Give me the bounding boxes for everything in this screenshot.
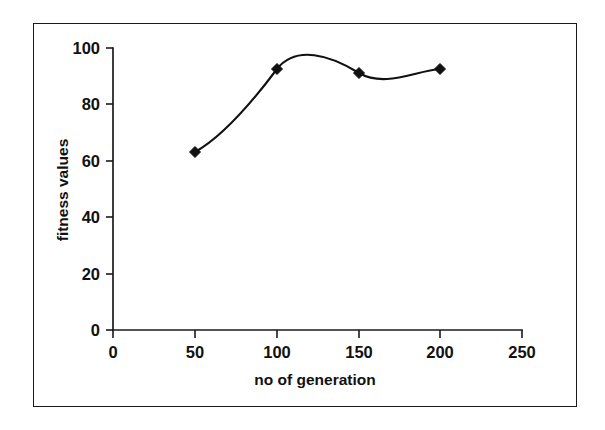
x-tick-label: 50 bbox=[186, 343, 204, 361]
y-tick-label: 80 bbox=[82, 95, 100, 113]
plot-area bbox=[113, 48, 522, 330]
x-axis-title: no of generation bbox=[254, 371, 375, 388]
x-tick-label: 0 bbox=[108, 343, 117, 361]
x-tick-label: 200 bbox=[426, 343, 454, 361]
chart-svg: 100 80 60 40 20 0 0 50 100 150 200 250 n… bbox=[0, 0, 605, 430]
y-tick-label: 60 bbox=[82, 152, 100, 170]
y-axis-tick-labels: 100 80 60 40 20 0 bbox=[72, 39, 100, 339]
x-tick-label: 250 bbox=[508, 343, 536, 361]
y-tick-label: 100 bbox=[72, 39, 100, 57]
y-axis-title: fitness values bbox=[54, 139, 71, 242]
y-tick-label: 40 bbox=[82, 208, 100, 226]
y-tick-label: 0 bbox=[91, 321, 100, 339]
x-axis-ticks bbox=[113, 330, 522, 338]
x-axis-tick-labels: 0 50 100 150 200 250 bbox=[108, 343, 535, 361]
y-axis-ticks bbox=[106, 48, 113, 330]
line-chart: 100 80 60 40 20 0 0 50 100 150 200 250 n… bbox=[0, 0, 605, 430]
y-tick-label: 20 bbox=[82, 265, 100, 283]
x-tick-label: 150 bbox=[345, 343, 373, 361]
x-tick-label: 100 bbox=[263, 343, 291, 361]
